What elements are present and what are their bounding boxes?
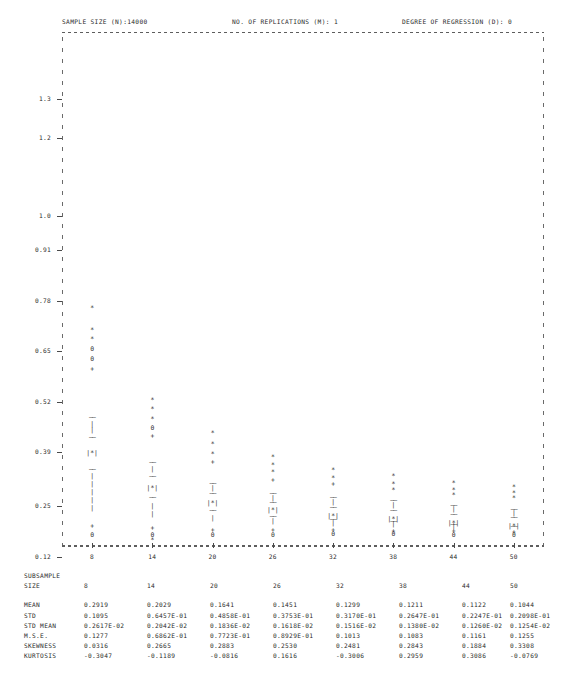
outlier-marker: * [150, 416, 154, 422]
table-cell: 0.2919 [84, 601, 108, 608]
table-cell: 0.1095 [84, 612, 108, 619]
table-cell: 0.0316 [84, 642, 108, 649]
table-row-label: SKEWNESS [24, 642, 56, 649]
outlier-marker: * [150, 406, 154, 412]
table-cell: 0.1254E-02 [510, 622, 550, 629]
table-cell: 0.2665 [147, 642, 171, 649]
x-axis-tick-label: 50 [510, 553, 518, 560]
table-spacer [24, 592, 564, 601]
table-cell: 0.3170E-01 [336, 612, 376, 619]
table-cell: 0.2843 [399, 642, 423, 649]
x-axis-tick-mark [152, 543, 153, 548]
percentile-marker: 0 [331, 531, 335, 537]
box-hinge-lower: —— [149, 494, 156, 500]
table-cell: 0.1255 [510, 632, 534, 639]
box-hinge-upper: —— [89, 434, 96, 440]
y-axis-tick-mark [57, 557, 62, 558]
whisker-segment: | [90, 473, 94, 479]
table-cell: 0.2530 [273, 642, 297, 649]
outlier-marker: * [90, 336, 94, 342]
x-axis-tick-mark [92, 543, 93, 548]
outlier-marker: * [150, 396, 154, 402]
table-cell: 0.1451 [273, 601, 297, 608]
box-hinge-upper: —— [209, 490, 216, 496]
table-cell: 0.1277 [84, 632, 108, 639]
statistical-report-page: SAMPLE SIZE (N):14000 NO. OF REPLICATION… [0, 0, 567, 690]
table-row: SKEWNESS0.03160.26650.28830.25300.24810.… [24, 642, 564, 652]
outlier-marker: * [271, 469, 275, 475]
table-cell: 0.2617E-02 [84, 622, 124, 629]
table-cell: 0.2029 [147, 601, 171, 608]
table-row-label: M.S.E. [24, 632, 48, 639]
x-axis-tick-label: 14 [148, 553, 156, 560]
median-marker: |*| [147, 484, 159, 490]
table-row: KURTOSIS-0.3047-0.1189-0.08160.1616-0.30… [24, 652, 564, 662]
table-row-label: KURTOSIS [24, 652, 56, 659]
statistics-table: SUBSAMPLE SIZE 814202632384450 MEAN0.291… [24, 572, 564, 663]
table-cell: -0.0816 [210, 652, 238, 659]
outlier-marker: * [90, 305, 94, 311]
outlier-marker: * [211, 429, 215, 435]
table-column-header: 38 [399, 582, 407, 589]
box-hinge-upper: —— [390, 507, 397, 513]
outlier-marker: * [211, 441, 215, 447]
table-row: M.S.E.0.12770.6862E-010.7723E-010.8929E-… [24, 632, 564, 642]
table-header-row: SIZE 814202632384450 [24, 582, 564, 592]
table-row-label: STD [24, 612, 36, 619]
table-column-header: 32 [336, 582, 344, 589]
whisker-cap-upper: —— [209, 480, 216, 486]
box-hinge-upper: —— [149, 473, 156, 479]
table-cell: 0.6457E-01 [147, 612, 187, 619]
table-cell: 0.1884 [462, 642, 486, 649]
table-cell: 0.8929E-01 [273, 632, 313, 639]
box-hinge-upper: —— [330, 504, 337, 510]
whisker-cap-upper: —— [511, 506, 518, 512]
table-cell: -0.3006 [336, 652, 364, 659]
table-column-header: 50 [510, 582, 518, 589]
table-column-header: 20 [210, 582, 218, 589]
y-axis-tick-label: 0.91 [0, 246, 62, 255]
x-axis-tick-label: 32 [329, 553, 337, 560]
table-cell: 0.1380E-02 [399, 622, 439, 629]
table-row: STD MEAN0.2617E-020.2042E-020.1836E-020.… [24, 622, 564, 632]
table-cell: 0.4858E-01 [210, 612, 250, 619]
table-cell: 0.1299 [336, 601, 360, 608]
box-hinge-upper: —— [511, 513, 518, 519]
table-cell: 0.1836E-02 [210, 622, 250, 629]
plot-left-border [62, 37, 63, 545]
table-row: MEAN0.29190.20290.16410.14510.12990.1211… [24, 601, 564, 611]
box-plot-area: ***00+||————|*|——|||||+0***0+|————|*|——|… [62, 37, 544, 545]
table-cell: 0.2098E-01 [510, 612, 550, 619]
table-cell: 0.1211 [399, 601, 423, 608]
table-cell: 0.6862E-01 [147, 632, 187, 639]
percentile-marker: 0 [452, 531, 456, 537]
x-axis-tick-mark [333, 543, 334, 548]
sample-size-label: SAMPLE SIZE (N):14000 [62, 18, 148, 25]
box-hinge-upper: —— [450, 510, 457, 516]
table-row-label: STD MEAN [24, 622, 56, 629]
whisker-cap-upper: —— [149, 459, 156, 465]
x-axis-tick-label: 20 [209, 553, 217, 560]
table-cell: 0.1083 [399, 632, 423, 639]
whisker-cap-upper: —— [450, 502, 457, 508]
report-header: SAMPLE SIZE (N):14000 NO. OF REPLICATION… [0, 18, 567, 28]
y-axis-tick-label: 0.65 [0, 347, 62, 356]
table-cell: 0.2481 [336, 642, 360, 649]
y-axis-tick-label: 0.25 [0, 502, 62, 511]
x-axis-tick-label: 8 [90, 553, 94, 560]
y-axis-tick-label: 1.3 [0, 95, 62, 104]
outlier-marker: * [90, 327, 94, 333]
table-column-header: 8 [84, 582, 88, 589]
table-cell: -0.0769 [510, 652, 538, 659]
percentile-marker: 0 [90, 531, 94, 537]
x-axis-tick-label: 44 [450, 553, 458, 560]
percentile-marker: + [331, 481, 335, 487]
box-hinge-lower: —— [209, 507, 216, 513]
x-axis-tick-mark [514, 543, 515, 548]
percentile-marker: 0 [150, 424, 154, 430]
whisker-segment: | [150, 511, 154, 517]
replications-label: NO. OF REPLICATIONS (M): 1 [232, 18, 338, 25]
percentile-marker: 0 [211, 532, 215, 538]
outlier-marker: * [512, 495, 516, 501]
plot-right-border [543, 37, 544, 545]
